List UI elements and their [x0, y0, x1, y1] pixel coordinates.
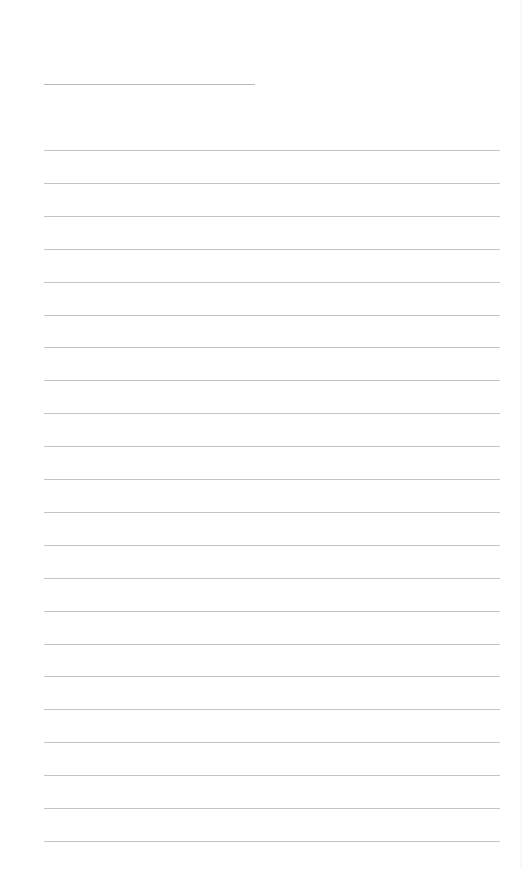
ruled-line [44, 479, 500, 480]
ruled-line [44, 315, 500, 316]
ruled-line [44, 249, 500, 250]
ruled-line [44, 216, 500, 217]
ruled-line [44, 611, 500, 612]
ruled-line [44, 446, 500, 447]
ruled-line [44, 841, 500, 842]
ruled-line [44, 380, 500, 381]
ruled-line [44, 742, 500, 743]
ruled-line [44, 808, 500, 809]
ruled-line [44, 709, 500, 710]
ruled-line [44, 545, 500, 546]
ruled-line [44, 413, 500, 414]
ruled-line [44, 512, 500, 513]
ruled-line [44, 282, 500, 283]
ruled-line [44, 150, 500, 151]
ruled-line [44, 183, 500, 184]
ruled-line [44, 644, 500, 645]
name-line [44, 84, 255, 85]
ruled-line [44, 775, 500, 776]
ruled-line [44, 578, 500, 579]
ruled-line [44, 347, 500, 348]
ruled-line [44, 676, 500, 677]
